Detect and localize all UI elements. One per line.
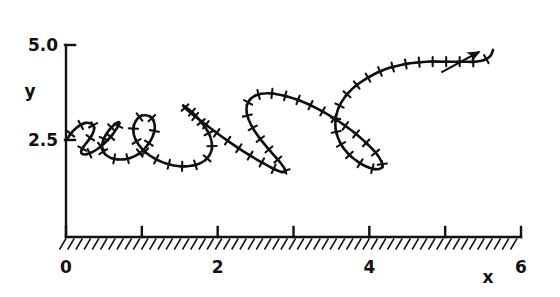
y-tick-label-1: 5.0 — [28, 35, 58, 55]
plot-area — [67, 50, 493, 174]
trajectory-markers — [67, 55, 489, 174]
cycloid-trajectory-chart: 2.55.00246yx — [0, 0, 560, 297]
figure-container: 2.55.00246yx — [0, 0, 560, 297]
x-tick-label-0: 0 — [60, 257, 72, 277]
x-tick-label-4: 4 — [363, 257, 375, 277]
hatched-ground — [60, 239, 518, 250]
y-axis-label: y — [24, 81, 35, 101]
x-axis-ticks — [66, 227, 521, 237]
x-tick-label-6: 6 — [515, 257, 527, 277]
x-tick-label-2: 2 — [212, 257, 224, 277]
trajectory-curve — [68, 50, 493, 172]
y-tick-label-0: 2.5 — [28, 130, 58, 150]
x-axis-label: x — [483, 267, 494, 287]
y-axis — [65, 45, 75, 237]
x-axis — [60, 227, 522, 250]
